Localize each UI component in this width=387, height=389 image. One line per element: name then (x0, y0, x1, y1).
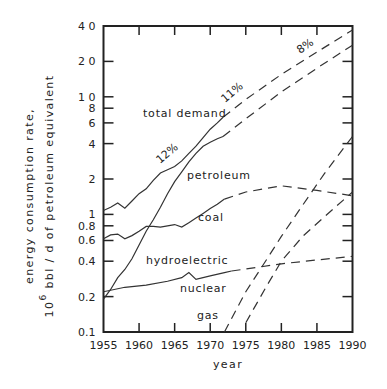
label-hydroelectric: hydroelectric (146, 254, 228, 267)
annotation-11-percent: 11% (219, 80, 246, 106)
y-tick-label: 4 (89, 138, 96, 151)
x-tick-label: 1990 (339, 339, 367, 352)
y-axis-title-line2: 106 bbl / d of petroleum equivalent (38, 75, 56, 318)
energy-consumption-chart: 19551960196519701975198019851990 0.10.20… (0, 0, 387, 389)
y-tick-label: 0.2 (78, 291, 96, 304)
y-tick-label: 0.8 (78, 220, 96, 233)
y-tick-label: 1 0 (78, 91, 96, 104)
y-tick-label: 8 (89, 102, 96, 115)
label-gas: gas (197, 309, 219, 322)
y-tick-label: 1 (89, 208, 96, 221)
label-coal: coal (198, 211, 224, 224)
line-coal-projected (224, 186, 352, 199)
x-tick-label: 1955 (90, 339, 118, 352)
x-tick-label: 1965 (161, 339, 189, 352)
x-tick-label: 1980 (267, 339, 295, 352)
annotation-12-percent: 12% (154, 141, 181, 167)
label-petroleum: petroleum (187, 169, 251, 182)
y-tick-label: 2 (89, 173, 96, 186)
y-tick-label: 4 0 (78, 20, 96, 33)
label-total-demand: total demand (143, 107, 226, 120)
x-tick-label: 1960 (125, 339, 153, 352)
y-tick-label: 0.1 (78, 326, 96, 339)
line-gas-projected (224, 136, 352, 332)
x-axis-title: year (213, 358, 243, 371)
y-axis-title-base: 10 (43, 301, 56, 318)
y-tick-label: 2 0 (78, 55, 96, 68)
y-axis-title-exponent: 6 (38, 293, 48, 300)
annotation-8-percent: 8% (294, 36, 316, 57)
y-axis-title-line1: energy consumption rate, (23, 108, 36, 284)
y-axis-title-unit: bbl / d of petroleum equivalent (43, 75, 56, 294)
x-tick-label: 1975 (232, 339, 260, 352)
x-tick-label: 1985 (303, 339, 331, 352)
line-hydroelectric-projected (232, 256, 353, 271)
x-axis: 19551960196519701975198019851990 (90, 26, 367, 352)
y-tick-label: 6 (89, 117, 96, 130)
y-tick-label: 0.6 (78, 234, 96, 247)
line-total-demand-projected (223, 30, 352, 117)
x-tick-label: 1970 (196, 339, 224, 352)
label-nuclear: nuclear (180, 282, 227, 295)
y-tick-label: 0.4 (78, 255, 96, 268)
